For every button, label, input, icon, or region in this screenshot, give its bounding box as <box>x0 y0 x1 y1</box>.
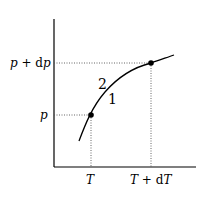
coexistence-curve-diagram: 2 1 p p + dp T T + dT <box>0 0 208 197</box>
y-label-p-dp: p + dp <box>10 56 51 70</box>
x-label-T: T <box>86 173 95 187</box>
coexistence-curve <box>79 55 174 141</box>
x-label-T-dT: T + dT <box>130 173 172 187</box>
region-label-2: 2 <box>98 76 107 92</box>
point-lower <box>88 112 94 118</box>
y-label-p: p <box>40 108 48 122</box>
region-label-1: 1 <box>108 91 117 107</box>
point-upper <box>148 60 154 66</box>
